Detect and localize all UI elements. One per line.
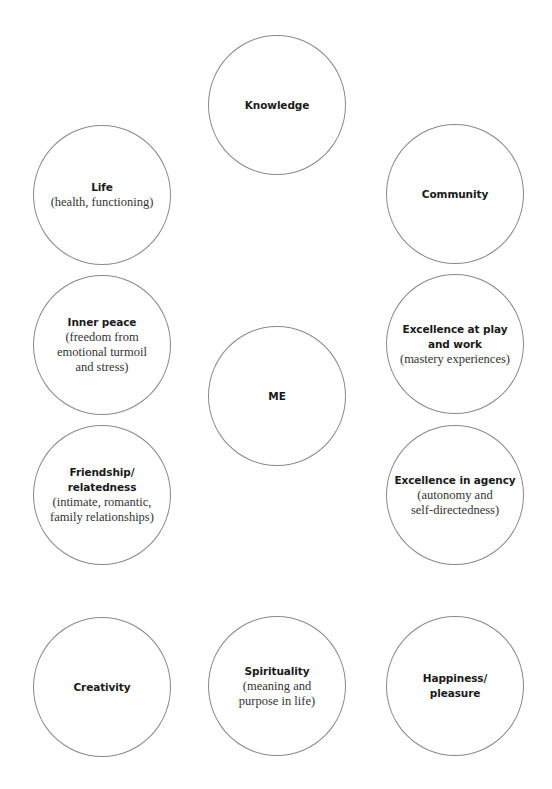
node-title: Friendship/ relatedness (68, 465, 137, 495)
node-title: Happiness/ pleasure (423, 671, 487, 701)
node-title: ME (268, 389, 285, 404)
node-subtitle: (mastery experiences) (400, 352, 510, 367)
node-title: Excellence at play and work (403, 322, 508, 352)
node-title: Spirituality (245, 664, 310, 679)
node-title: Excellence in agency (394, 473, 515, 488)
node-title: Inner peace (68, 315, 137, 330)
node-spirituality: Spirituality (meaning and purpose in lif… (208, 616, 346, 756)
goods-diagram: Knowledge Life (health, functioning) Com… (0, 0, 552, 789)
node-knowledge: Knowledge (208, 35, 346, 175)
node-me: ME (208, 326, 346, 466)
node-friendship: Friendship/ relatedness (intimate, roman… (33, 425, 171, 565)
node-excellence-agency: Excellence in agency (autonomy and self-… (386, 425, 524, 565)
node-subtitle: (health, functioning) (51, 195, 154, 210)
node-happiness: Happiness/ pleasure (386, 616, 524, 756)
node-community: Community (386, 124, 524, 264)
node-excellence-play-work: Excellence at play and work (mastery exp… (386, 274, 524, 414)
node-subtitle: (meaning and purpose in life) (239, 679, 315, 709)
node-title: Knowledge (245, 98, 310, 113)
node-inner-peace: Inner peace (freedom from emotional turm… (33, 275, 171, 415)
node-life: Life (health, functioning) (33, 125, 171, 265)
node-subtitle: (intimate, romantic, family relationship… (50, 495, 154, 525)
node-title: Community (422, 187, 488, 202)
node-subtitle: (freedom from emotional turmoil and stre… (57, 330, 147, 375)
node-title: Life (91, 180, 113, 195)
node-creativity: Creativity (33, 617, 171, 757)
node-title: Creativity (73, 680, 130, 695)
node-subtitle: (autonomy and self-directedness) (411, 488, 499, 518)
